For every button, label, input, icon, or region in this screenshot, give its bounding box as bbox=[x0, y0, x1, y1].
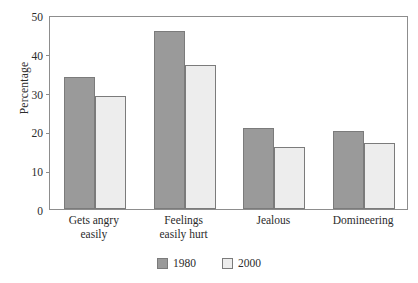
plot-area: 01020304050 bbox=[49, 16, 408, 210]
legend-label: 1980 bbox=[173, 257, 196, 269]
y-axis-tick-label: 20 bbox=[32, 127, 47, 139]
bar-2000-domineering bbox=[364, 143, 395, 209]
x-axis-label: Domineering bbox=[318, 214, 408, 228]
y-axis-tick-label: 0 bbox=[37, 205, 46, 217]
x-axis-label-line: Jealous bbox=[229, 214, 319, 228]
bar-2000-jealous bbox=[274, 147, 305, 209]
bar-1980-gets-angry-easily bbox=[64, 77, 95, 209]
x-axis-label-line: Domineering bbox=[318, 214, 408, 228]
legend-item-2000: 2000 bbox=[222, 257, 261, 269]
bar-1980-feelings-easily-hurt bbox=[154, 31, 185, 209]
x-axis-label: Feelingseasily hurt bbox=[139, 214, 229, 241]
chart-legend: 19802000 bbox=[0, 257, 418, 269]
y-axis-tick: 40 bbox=[32, 50, 51, 62]
bar-2000-feelings-easily-hurt bbox=[185, 65, 216, 209]
y-axis-tick-label: 40 bbox=[32, 50, 47, 62]
bar-2000-gets-angry-easily bbox=[95, 96, 126, 209]
y-axis-tick-label: 10 bbox=[32, 166, 47, 178]
y-axis-tick: 30 bbox=[32, 89, 51, 101]
bar-1980-domineering bbox=[333, 131, 364, 209]
x-axis-label-line: easily hurt bbox=[139, 228, 229, 242]
y-axis-tick: 20 bbox=[32, 127, 51, 139]
y-axis-tick-label: 50 bbox=[32, 11, 47, 23]
y-axis-tick-label: 30 bbox=[32, 89, 47, 101]
legend-swatch-icon bbox=[222, 258, 233, 269]
bar-series-layer bbox=[50, 17, 407, 209]
bar-chart: Percentage 01020304050 Gets angryeasilyF… bbox=[0, 0, 418, 283]
x-axis-label-line: easily bbox=[49, 228, 139, 242]
x-axis-label: Gets angryeasily bbox=[49, 214, 139, 241]
legend-item-1980: 1980 bbox=[157, 257, 196, 269]
x-axis-label-line: Gets angry bbox=[49, 214, 139, 228]
legend-swatch-icon bbox=[157, 258, 168, 269]
legend-label: 2000 bbox=[238, 257, 261, 269]
y-axis-title: Percentage bbox=[18, 28, 30, 148]
bar-1980-jealous bbox=[243, 128, 274, 209]
y-axis-tick: 50 bbox=[32, 11, 51, 23]
x-axis-label: Jealous bbox=[229, 214, 319, 228]
x-axis-label-line: Feelings bbox=[139, 214, 229, 228]
y-axis-tick: 10 bbox=[32, 166, 51, 178]
